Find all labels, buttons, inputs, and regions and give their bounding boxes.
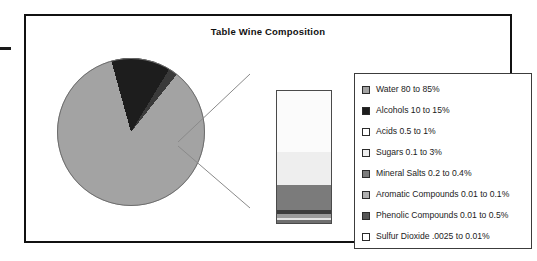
legend-item-label: Phenolic Compounds 0.01 to 0.5% <box>376 211 508 220</box>
legend-swatch-sugars <box>362 149 370 157</box>
exploded-detail-bar <box>276 90 332 224</box>
pie-slices <box>57 58 205 206</box>
legend-item[interactable]: Sulfur Dioxide .0025 to 0.01% <box>355 226 531 247</box>
figure-root: Table Wine Composition Water 80 to 85%Al… <box>0 0 537 261</box>
detail-segment-mineral-salts <box>277 185 331 210</box>
legend-item[interactable]: Acids 0.5 to 1% <box>355 121 531 142</box>
legend-item[interactable]: Phenolic Compounds 0.01 to 0.5% <box>355 205 531 226</box>
legend-item[interactable]: Sugars 0.1 to 3% <box>355 142 531 163</box>
legend-item-label: Mineral Salts 0.2 to 0.4% <box>376 169 472 178</box>
detail-segment-base-band <box>277 220 331 223</box>
detail-segment-acids <box>277 91 331 152</box>
legend-swatch-alcohols <box>362 107 370 115</box>
legend-box: Water 80 to 85%Alcohols 10 to 15%Acids 0… <box>354 73 532 249</box>
left-edge-dash-mark <box>0 47 11 50</box>
legend-item[interactable]: Mineral Salts 0.2 to 0.4% <box>355 163 531 184</box>
legend-item-label: Sugars 0.1 to 3% <box>376 148 442 157</box>
legend-swatch-aromatic-compounds <box>362 191 370 199</box>
legend-item-label: Sulfur Dioxide .0025 to 0.01% <box>376 232 490 241</box>
pie-chart <box>57 58 205 206</box>
legend-swatch-mineral-salts <box>362 170 370 178</box>
legend-item-label: Alcohols 10 to 15% <box>376 106 450 115</box>
chart-title: Table Wine Composition <box>26 26 510 37</box>
legend-item[interactable]: Water 80 to 85% <box>355 79 531 100</box>
detail-segment-sugars <box>277 152 331 185</box>
legend-swatch-sulfur-dioxide <box>362 233 370 241</box>
chart-frame: Table Wine Composition Water 80 to 85%Al… <box>24 14 512 243</box>
legend-item-label: Aromatic Compounds 0.01 to 0.1% <box>376 190 509 199</box>
legend-item-label: Water 80 to 85% <box>376 85 440 94</box>
legend-swatch-water <box>362 86 370 94</box>
legend-item-label: Acids 0.5 to 1% <box>376 127 436 136</box>
legend-item[interactable]: Aromatic Compounds 0.01 to 0.1% <box>355 184 531 205</box>
legend-item[interactable]: Alcohols 10 to 15% <box>355 100 531 121</box>
legend-swatch-phenolic-compounds <box>362 212 370 220</box>
legend-swatch-acids <box>362 128 370 136</box>
